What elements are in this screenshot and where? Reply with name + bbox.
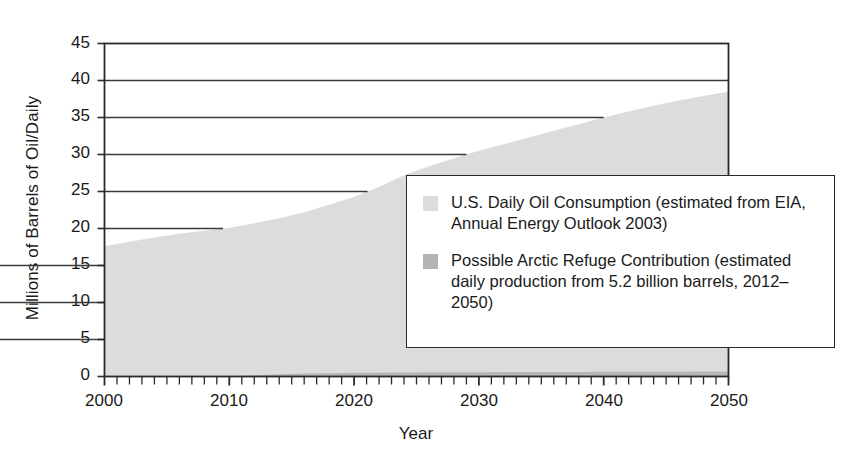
legend-swatch-icon-arctic <box>423 254 438 269</box>
chart-figure: Millions of Barrels of Oil/Daily 45 40 3… <box>0 0 862 466</box>
legend-entry-arctic: Possible Arctic Refuge Contribution (est… <box>423 250 820 313</box>
legend-entry-consumption: U.S. Daily Oil Consumption (estimated fr… <box>423 192 820 234</box>
chart-legend: U.S. Daily Oil Consumption (estimated fr… <box>406 175 835 348</box>
legend-label-arctic: Possible Arctic Refuge Contribution (est… <box>451 250 820 313</box>
legend-swatch-icon-consumption <box>423 196 438 211</box>
legend-label-consumption: U.S. Daily Oil Consumption (estimated fr… <box>451 192 820 234</box>
